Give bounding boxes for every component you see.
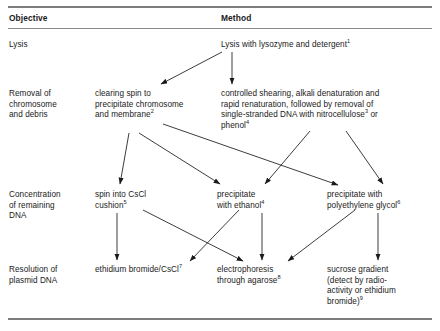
footnote-marker: 6 <box>397 199 400 205</box>
objective-cell-concentration: Concentration of remaining DNA <box>9 190 61 222</box>
footnote-marker-secondary: 4 <box>246 119 249 125</box>
objective-cell-resolution: Resolution of plasmid DNA <box>9 265 57 286</box>
method-text: Lysis with lysozyme and detergent <box>221 40 347 49</box>
column-header-method: Method <box>221 13 251 23</box>
footnote-marker: 8 <box>277 274 280 280</box>
arrow-clearing-to-cscl-cushion <box>120 133 129 184</box>
arrow-clearing-to-peg <box>163 124 338 185</box>
method-text: clearing spin to precipitate chromosome … <box>95 89 183 119</box>
footnote-marker: 9 <box>360 295 363 301</box>
method-text: controlled shearing, alkali denaturation… <box>221 89 379 119</box>
method-cell-controlled-shearing: controlled shearing, alkali denaturation… <box>221 89 436 131</box>
method-cell-lysis: Lysis with lysozyme and detergent1 <box>221 40 350 51</box>
objective-cell-removal: Removal of chromosome and debris <box>9 89 57 121</box>
arrow-shearing-to-peg <box>346 131 383 184</box>
table-header-rule <box>8 28 432 29</box>
method-text: spin into CsCl cushion <box>95 190 146 210</box>
method-text: electrophoresis through agarose <box>217 265 277 285</box>
footnote-marker: 2 <box>151 108 154 114</box>
method-text: precipitate with polyethylene glycol <box>327 190 397 210</box>
arrow-shearing-to-ethanol <box>265 131 310 184</box>
arrow-clearing-to-ethanol <box>139 133 220 184</box>
table-top-rule <box>8 6 432 8</box>
method-cell-electrophoresis: electrophoresis through agarose8 <box>217 265 281 286</box>
footnote-marker: 5 <box>124 199 127 205</box>
method-cell-ethidium-cscl: ethidium bromide/CsCl7 <box>95 265 182 276</box>
column-header-objective: Objective <box>9 13 48 23</box>
method-cell-peg-precipitation: precipitate with polyethylene glycol6 <box>327 190 400 211</box>
table-bottom-rule <box>8 318 432 320</box>
method-cell-sucrose-gradient: sucrose gradient (detect by radio- activ… <box>327 265 396 307</box>
method-cell-ethanol-precipitation: precipitate with ethanol4 <box>217 190 264 211</box>
footnote-marker: 1 <box>347 38 350 44</box>
arrow-lysis-to-clearing-spin <box>161 52 222 84</box>
objective-cell-lysis: Lysis <box>9 40 28 51</box>
arrow-cscl-to-electrophoresis <box>143 210 243 261</box>
protocol-flow-table: Objective Method Lysis Lysis with lysozy… <box>0 0 440 331</box>
footnote-marker: 7 <box>179 263 182 269</box>
method-cell-clearing-spin: clearing spin to precipitate chromosome … <box>95 89 183 121</box>
arrow-peg-to-electrophoresis <box>288 210 355 261</box>
method-cell-cscl-cushion: spin into CsCl cushion5 <box>95 190 146 211</box>
footnote-marker: 4 <box>261 199 264 205</box>
arrow-ethanol-to-ethidium <box>190 210 239 261</box>
method-text: ethidium bromide/CsCl <box>95 265 179 274</box>
method-text: precipitate with ethanol <box>217 190 261 210</box>
